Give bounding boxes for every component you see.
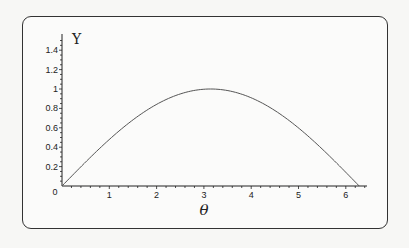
x-tick-label: 4 [249, 190, 254, 200]
plot-area: 123456 0.20.40.60.811.21.4 0 θ Υ [0, 0, 409, 248]
y-tick-label: 1.2 [45, 65, 58, 75]
y-tick-label: 0.8 [45, 103, 58, 113]
origin-label: 0 [52, 187, 57, 197]
x-tick-label: 1 [107, 190, 112, 200]
x-tick-label: 5 [296, 190, 301, 200]
x-tick-label: 3 [201, 190, 206, 200]
x-tick-label: 6 [343, 190, 348, 200]
y-tick-label: 0.2 [45, 162, 58, 172]
data-curve [62, 89, 359, 186]
y-tick-label: 1.4 [45, 45, 58, 55]
y-tick-label: 1 [53, 84, 58, 94]
x-tick-labels: 123456 [107, 190, 349, 200]
y-axis-title: Υ [71, 31, 82, 47]
y-tick-labels: 0.20.40.60.811.21.4 [45, 45, 58, 171]
y-tick-label: 0.6 [45, 123, 58, 133]
x-tick-label: 2 [154, 190, 159, 200]
y-tick-label: 0.4 [45, 142, 58, 152]
x-axis-title: θ [199, 201, 208, 219]
